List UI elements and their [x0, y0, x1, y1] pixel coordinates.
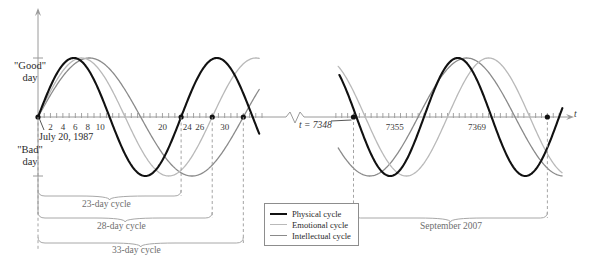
legend-label-intellectual: Intellectual cycle	[292, 231, 351, 241]
bad-day-line2: day	[4, 156, 56, 168]
t-marker-label: t = 7348	[299, 120, 332, 131]
zero-crossing-dot-7348	[351, 114, 356, 119]
biorhythm-figure: 2468102024263073557369 "Good" day "Bad" …	[0, 0, 589, 267]
start-date-label: July 20, 1987	[39, 131, 93, 143]
legend-swatch-physical	[270, 213, 287, 215]
bad-day-line1: "Bad"	[4, 144, 56, 156]
leader-line-start-date	[40, 119, 45, 130]
cycle-bracket-label-28: 28-day cycle	[97, 221, 146, 232]
tick-label-30: 30	[220, 122, 230, 132]
september-2007-label: September 2007	[420, 221, 482, 232]
cycle-bracket-label-33: 33-day cycle	[112, 245, 161, 256]
legend-label-physical: Physical cycle	[292, 209, 341, 219]
tick-label-26: 26	[195, 122, 205, 132]
legend-item-emotional: Emotional cycle	[270, 219, 351, 230]
good-day-line1: "Good"	[4, 60, 56, 72]
tick-label-20: 20	[158, 122, 168, 132]
axis-variable-label: t	[574, 109, 577, 120]
legend: Physical cycle Emotional cycle Intellect…	[264, 203, 359, 246]
leader-line-t7348	[331, 120, 352, 121]
cycle-bracket-label-23: 23-day cycle	[82, 199, 131, 210]
legend-swatch-intellectual	[270, 235, 287, 236]
good-day-label: "Good" day	[4, 60, 56, 84]
tick-label-7369: 7369	[468, 122, 487, 132]
legend-label-emotional: Emotional cycle	[292, 220, 348, 230]
legend-swatch-emotional	[270, 224, 287, 225]
legend-item-physical: Physical cycle	[270, 208, 351, 219]
tick-label-10: 10	[96, 122, 106, 132]
tick-label-7355: 7355	[386, 122, 405, 132]
bad-day-label: "Bad" day	[4, 144, 56, 168]
good-day-line2: day	[4, 72, 56, 84]
zero-crossing-dot-7381	[545, 114, 550, 119]
tick-label-24: 24	[183, 122, 193, 132]
legend-item-intellectual: Intellectual cycle	[270, 230, 351, 241]
